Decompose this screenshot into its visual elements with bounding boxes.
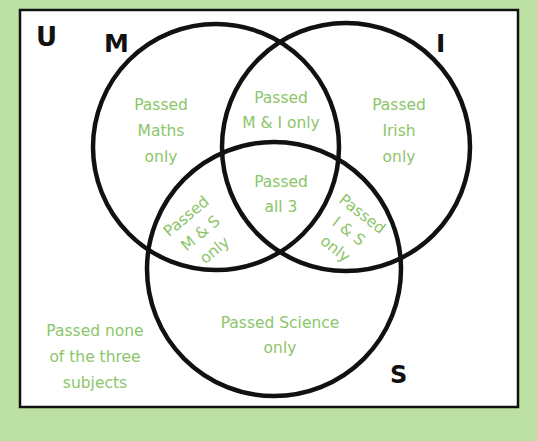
svg-text:Passed Science: Passed Science bbox=[221, 314, 340, 332]
svg-text:of the three: of the three bbox=[49, 348, 140, 366]
svg-text:only: only bbox=[264, 339, 297, 357]
svg-text:Passed none: Passed none bbox=[46, 322, 143, 340]
svg-text:Irish: Irish bbox=[382, 122, 415, 140]
set-i-label: I bbox=[436, 29, 445, 58]
set-m-label: M bbox=[104, 29, 129, 58]
svg-text:M & I only: M & I only bbox=[242, 114, 320, 132]
svg-text:Maths: Maths bbox=[138, 122, 185, 140]
svg-text:Passed: Passed bbox=[254, 89, 308, 107]
svg-text:subjects: subjects bbox=[63, 374, 127, 392]
svg-text:all 3: all 3 bbox=[265, 198, 298, 216]
universe-label: U bbox=[36, 22, 57, 52]
set-s-label: S bbox=[390, 361, 407, 389]
svg-text:Passed: Passed bbox=[372, 96, 426, 114]
svg-text:Passed: Passed bbox=[254, 173, 308, 191]
svg-text:only: only bbox=[145, 148, 178, 166]
svg-text:only: only bbox=[383, 148, 416, 166]
venn-diagram: U M I S Passed Maths only Passed M & I o… bbox=[0, 0, 537, 441]
svg-text:Passed: Passed bbox=[134, 96, 188, 114]
